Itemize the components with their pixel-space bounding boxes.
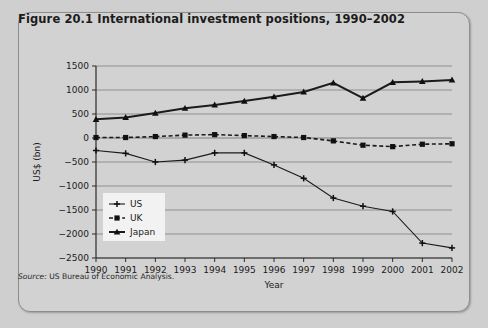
x-tick-label: 1998: [322, 265, 345, 275]
legend-label-japan: Japan: [129, 227, 155, 237]
series-uk: [93, 132, 454, 149]
y-axis-title: US$ (bn): [32, 142, 42, 181]
y-tick-label: −1000: [59, 181, 90, 191]
x-tick-label: 1993: [174, 265, 197, 275]
chart-plot-area: 150010005000−500−1000−1500−2000−2500 199…: [0, 0, 488, 328]
x-tick-label: 1991: [114, 265, 137, 275]
y-tick-label: −1500: [59, 205, 90, 215]
y-tick-label: 1000: [66, 85, 89, 95]
y-tick-label: 0: [83, 133, 89, 143]
x-axis-title: Year: [263, 280, 283, 290]
x-axis-tick-labels: 1990199119921993199419951996199719981999…: [85, 265, 464, 275]
x-tick-label: 1999: [352, 265, 375, 275]
series-japan: [93, 77, 456, 122]
x-tick-label: 1994: [203, 265, 226, 275]
x-tick-label: 2002: [441, 265, 464, 275]
x-tick-label: 2001: [411, 265, 434, 275]
legend-label-us: US: [130, 199, 143, 209]
legend-label-uk: UK: [130, 213, 144, 223]
y-tick-label: −2000: [59, 229, 90, 239]
y-axis-tick-labels: 150010005000−500−1000−1500−2000−2500: [59, 61, 90, 263]
x-tick-label: 1997: [292, 265, 315, 275]
x-tick-label: 1990: [85, 265, 108, 275]
investment-positions-line-chart: 150010005000−500−1000−1500−2000−2500 199…: [0, 0, 488, 328]
y-tick-label: −500: [64, 157, 89, 167]
y-tick-label: −2500: [59, 253, 90, 263]
x-tick-label: 2000: [381, 265, 404, 275]
x-tick-label: 1992: [144, 265, 167, 275]
x-tick-label: 1996: [263, 265, 286, 275]
x-tick-label: 1995: [233, 265, 256, 275]
y-tick-label: 500: [72, 109, 89, 119]
chart-legend: USUKJapan: [103, 193, 165, 241]
y-tick-label: 1500: [66, 61, 89, 71]
